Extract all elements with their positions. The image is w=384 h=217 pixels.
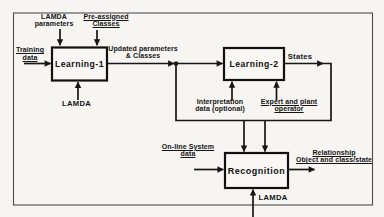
learning2-label: Learning-2 xyxy=(224,48,284,80)
states-label: States xyxy=(288,53,313,61)
learning1-label: Learning-1 xyxy=(52,48,107,81)
relationship-label: Relationship Object and class/state xyxy=(296,149,372,164)
lamda-learning1-label: LAMDA xyxy=(62,100,91,108)
outer-frame xyxy=(14,13,373,205)
lamda-parameters-label: LAMDA parameters xyxy=(35,13,74,28)
expert-plant-operator-label: Expert and plant operator xyxy=(261,98,317,113)
interpretation-data-label: Interpretation data (optional) xyxy=(195,98,245,113)
diagram-lines xyxy=(0,0,384,217)
updated-parameters-label: Updated parameters & Classes xyxy=(108,45,178,60)
training-data-label: Training data xyxy=(16,46,44,61)
recognition-label: Recognition xyxy=(225,153,288,188)
online-system-data-label: On-line System data xyxy=(162,143,214,158)
pre-assigned-classes-label: Pre-assigned Classes xyxy=(83,13,128,28)
diagram-canvas: Learning-1 Learning-2 Recognition LAMDA … xyxy=(0,0,384,217)
lamda-recognition-label: LAMDA xyxy=(259,194,288,202)
